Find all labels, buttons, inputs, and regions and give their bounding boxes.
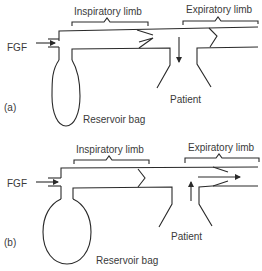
inspiratory-limb-label: Inspiratory limb	[76, 144, 144, 155]
tube-bottom-wall-exp	[197, 47, 258, 87]
tube-bottom-wall-insp	[73, 187, 172, 227]
patient-label: Patient	[170, 94, 201, 105]
patient-label: Patient	[171, 231, 202, 242]
breathing-circuit-diagram: Inspiratory limb Expiratory limb FGF Pat…	[0, 0, 262, 271]
expiratory-brace	[183, 17, 258, 25]
fgf-label: FGF	[7, 42, 27, 53]
fgf-label: FGF	[7, 178, 27, 189]
panel-a: Inspiratory limb Expiratory limb FGF Pat…	[4, 4, 258, 126]
tube-top-wall	[59, 27, 258, 41]
expiratory-limb-label: Expiratory limb	[188, 142, 255, 153]
reservoir-bag	[43, 199, 91, 264]
reservoir-bag-label: Reservoir bag	[83, 114, 145, 125]
expiratory-valve	[209, 28, 217, 47]
expiratory-limb-label: Expiratory limb	[186, 4, 253, 15]
inspiratory-valve	[137, 30, 153, 48]
tube-bottom-wall-insp	[72, 48, 170, 88]
inspiratory-brace	[72, 18, 148, 26]
panel-label: (a)	[4, 102, 16, 113]
tube-bottom-wall-exp	[199, 186, 258, 226]
inspiratory-valve	[138, 169, 145, 187]
tube-top-wall	[61, 167, 258, 178]
reservoir-bag-label: Reservoir bag	[96, 255, 158, 266]
expiratory-brace	[185, 154, 259, 163]
panel-b: Inspiratory limb Expiratory limb FGF Pat…	[4, 142, 259, 266]
panel-label: (b)	[4, 237, 16, 248]
inspiratory-limb-label: Inspiratory limb	[74, 6, 142, 17]
reservoir-bag	[52, 60, 80, 126]
inspiratory-brace	[74, 156, 149, 164]
